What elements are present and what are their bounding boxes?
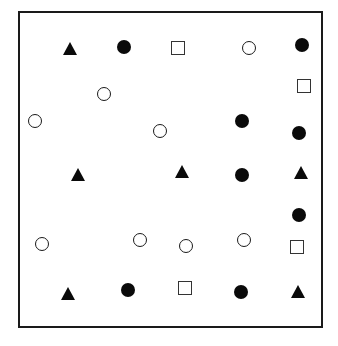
open-circle-icon xyxy=(97,87,111,101)
open-square-icon xyxy=(290,240,304,254)
open-circle-icon xyxy=(242,41,256,55)
open-square-icon xyxy=(297,79,311,93)
filled-circle-icon xyxy=(234,285,248,299)
open-circle-icon xyxy=(237,233,251,247)
filled-circle-icon xyxy=(117,40,131,54)
filled-triangle-icon xyxy=(61,287,75,300)
filled-circle-icon xyxy=(292,126,306,140)
open-square-icon xyxy=(171,41,185,55)
filled-circle-icon xyxy=(121,283,135,297)
filled-triangle-icon xyxy=(175,165,189,178)
filled-triangle-icon xyxy=(294,166,308,179)
open-circle-icon xyxy=(133,233,147,247)
filled-circle-icon xyxy=(292,208,306,222)
open-square-icon xyxy=(178,281,192,295)
diagram-frame xyxy=(18,11,323,328)
filled-circle-icon xyxy=(235,168,249,182)
open-circle-icon xyxy=(28,114,42,128)
filled-triangle-icon xyxy=(71,168,85,181)
open-circle-icon xyxy=(35,237,49,251)
filled-circle-icon xyxy=(295,38,309,52)
filled-circle-icon xyxy=(235,114,249,128)
open-circle-icon xyxy=(153,124,167,138)
open-circle-icon xyxy=(179,239,193,253)
filled-triangle-icon xyxy=(63,42,77,55)
filled-triangle-icon xyxy=(291,285,305,298)
